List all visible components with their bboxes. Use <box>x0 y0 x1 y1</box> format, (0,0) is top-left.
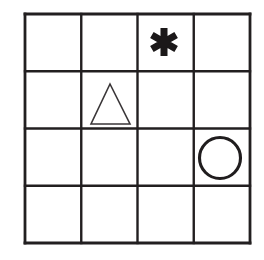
grid-cell-r1c1[interactable] <box>25 14 81 71</box>
grid-cell-r1c2[interactable] <box>81 14 137 71</box>
grid-cell-r4c2[interactable] <box>81 186 137 243</box>
shape-grid-figure <box>0 0 264 260</box>
grid-cell-r3c3[interactable] <box>138 129 194 186</box>
grid-cell-r4c3[interactable] <box>138 186 194 243</box>
asterisk-hub <box>158 36 169 47</box>
shape-grid-canvas <box>0 0 264 260</box>
grid-cell-r3c1[interactable] <box>25 129 81 186</box>
grid-cell-r4c4[interactable] <box>194 186 250 243</box>
grid-cell-r1c4[interactable] <box>194 14 250 71</box>
grid-cell-r2c1[interactable] <box>25 71 81 128</box>
grid-cell-r2c4[interactable] <box>194 71 250 128</box>
grid-cell-r3c2[interactable] <box>81 129 137 186</box>
grid-cell-r2c2[interactable] <box>81 71 137 128</box>
grid-cell-r2c3[interactable] <box>138 71 194 128</box>
grid-cell-r4c1[interactable] <box>25 186 81 243</box>
